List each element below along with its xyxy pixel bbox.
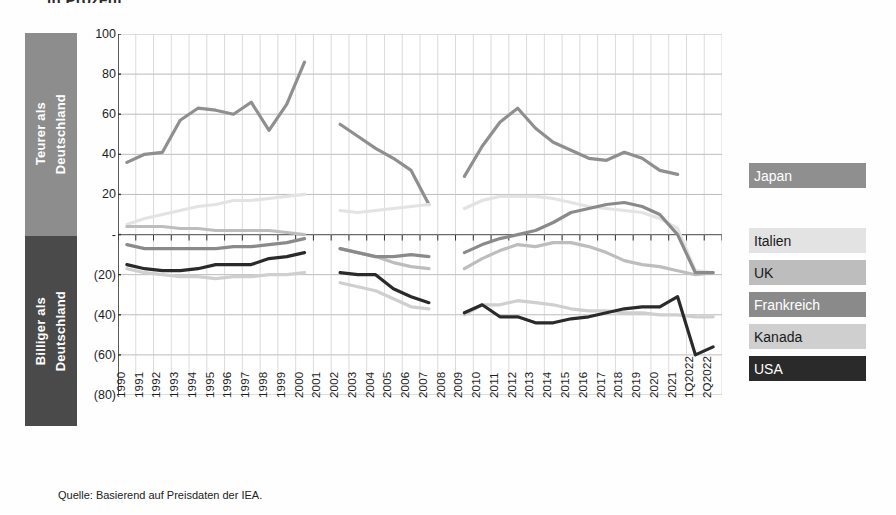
x-axis-tick-label: 2002 [328,372,340,398]
x-axis-tick-label: 1993 [168,372,180,398]
x-axis-tick-label: 2004 [364,372,376,398]
chart-svg [118,34,722,395]
x-axis-tick-label: 2016 [577,372,589,398]
x-axis-tick-label: 2018 [612,372,624,398]
legend-item-label: UK [754,265,773,281]
legend-item-uk[interactable]: UK [749,260,866,285]
x-axis-tick-label: 2012 [506,372,518,398]
y-axis-tick-label: (60) [94,348,116,362]
x-axis-tick-label: 2010 [470,372,482,398]
legend-item-label: USA [754,361,783,377]
y-axis-tick-label: (80) [94,388,116,402]
source-note: Quelle: Basierend auf Preisdaten der IEA… [58,489,262,501]
x-axis-tick-label: 2000 [293,372,305,398]
x-axis-tick-label: 2020 [648,372,660,398]
x-axis-tick-label: 2006 [399,372,411,398]
banner-teurer-label: Teurer als Deutschland [31,94,71,174]
banner-billiger-label: Billiger als Deutschland [31,291,71,371]
x-axis-tick-label: 1992 [150,372,162,398]
x-axis-tick-label: 2021 [666,372,678,398]
legend-item-label: Kanada [754,329,802,345]
x-axis-labels: 1990199119921993199419951996199719981999… [118,398,722,488]
legend-item-italien[interactable]: Italien [749,228,866,253]
legend-item-japan[interactable]: Japan [749,163,866,188]
x-axis-tick-label: 2008 [435,372,447,398]
x-axis-tick-label: 1996 [221,372,233,398]
chart-plot-area [118,34,722,395]
banner-teurer-als-deutschland: Teurer als Deutschland [25,33,77,236]
legend-item-usa[interactable]: USA [749,356,866,381]
x-axis-tick-label: 2007 [417,372,429,398]
y-axis-tick-label: 40 [102,147,116,161]
x-axis-tick-label: 2019 [630,372,642,398]
x-axis-tick-label: 2015 [559,372,571,398]
x-axis-tick-label: 2003 [346,372,358,398]
series-line-uk [464,243,713,275]
banner-billiger-als-deutschland: Billiger als Deutschland [25,236,77,426]
y-axis-labels: 10080604020-(20)(40)(60)(80) [78,0,116,515]
x-axis-tick-label: 1997 [239,372,251,398]
x-axis-tick-label: 2011 [488,372,500,398]
x-axis-tick-label: 1998 [257,372,269,398]
legend-item-kanada[interactable]: Kanada [749,324,866,349]
x-axis-tick-label: 2005 [381,372,393,398]
legend-item-label: Japan [754,168,792,184]
x-axis-tick-label: 1994 [186,372,198,398]
x-axis-tick-label: 1990 [115,372,127,398]
legend-item-label: Frankreich [754,297,820,313]
x-axis-tick-label: 2013 [523,372,535,398]
series-line-frankreich [464,203,713,273]
x-axis-tick-label: 2014 [541,372,553,398]
legend-item-label: Italien [754,233,791,249]
x-axis-tick-label: 2Q2022 [701,356,713,398]
y-axis-tick-label: 60 [102,107,116,121]
x-axis-tick-label: 1991 [133,372,145,398]
y-axis-tick-label: 100 [95,27,116,41]
y-axis-tick-label: 80 [102,67,116,81]
x-axis-tick-label: 2001 [310,372,322,398]
y-axis-tick-label: - [112,228,116,242]
legend-item-frankreich[interactable]: Frankreich [749,292,866,317]
x-axis-tick-label: 1Q2022 [683,356,695,398]
x-axis-tick-label: 2017 [595,372,607,398]
x-axis-tick-label: 2009 [452,372,464,398]
y-axis-tick-label: (20) [94,268,116,282]
y-axis-tick-label: (40) [94,308,116,322]
x-axis-tick-label: 1999 [275,372,287,398]
x-axis-tick-label: 1995 [204,372,216,398]
series-line-japan [464,108,677,176]
chart-page: in Prozent Teurer als Deutschland Billig… [0,0,896,515]
y-axis-tick-label: 20 [102,187,116,201]
